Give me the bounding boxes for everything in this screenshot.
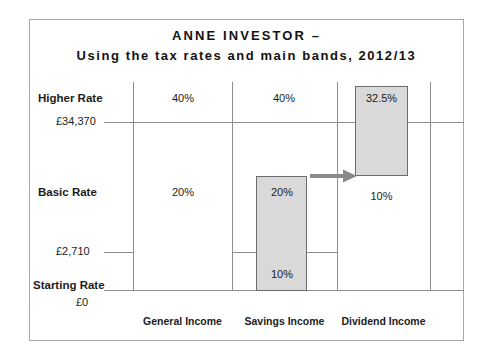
rate-dividend-higher: 32.5%	[355, 92, 408, 104]
tax-bands-chart: ANNE INVESTOR – Using the tax rates and …	[0, 0, 484, 357]
rate-general-basic: 20%	[156, 186, 210, 198]
band-label-starting-rate: Starting Rate	[33, 279, 105, 291]
axis-label-34370: £34,370	[56, 115, 96, 127]
title-line-1: ANNE INVESTOR –	[29, 28, 464, 43]
chart-frame	[29, 19, 464, 341]
rate-savings-starting: 10%	[257, 268, 307, 280]
title-line-2: Using the tax rates and main bands, 2012…	[29, 48, 464, 63]
axis-label-zero: £0	[76, 296, 88, 308]
rate-savings-higher: 40%	[257, 92, 311, 104]
band-label-higher-rate: Higher Rate	[38, 92, 103, 104]
column-header-savings-income: Savings Income	[232, 315, 337, 327]
column-header-dividend-income: Dividend Income	[337, 315, 430, 327]
column-header-general-income: General Income	[133, 315, 232, 327]
band-label-basic-rate: Basic Rate	[38, 186, 97, 198]
rate-dividend-basic: 10%	[355, 190, 408, 202]
rate-savings-basic: 20%	[257, 186, 307, 198]
chart-title: ANNE INVESTOR – Using the tax rates and …	[29, 28, 464, 63]
rate-general-higher: 40%	[156, 92, 210, 104]
axis-label-2710: £2,710	[56, 245, 90, 257]
